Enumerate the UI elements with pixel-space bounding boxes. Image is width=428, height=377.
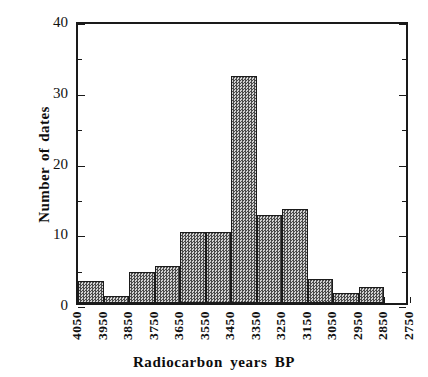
bar [282, 209, 308, 303]
y-tick-label: 20 [34, 157, 68, 172]
bar [78, 281, 104, 303]
y-tick-major [78, 307, 85, 308]
x-tick-label: 3350 [248, 311, 262, 340]
chart-page: Number of dates 010203040 40503950385037… [0, 0, 428, 377]
bar [155, 266, 181, 303]
y-tick-label: 10 [34, 227, 68, 242]
x-tick-label: 3450 [222, 311, 236, 340]
bars-container [78, 24, 406, 303]
bar [333, 293, 359, 303]
x-tick-label: 2850 [375, 311, 389, 340]
y-tick-label: 0 [34, 298, 68, 313]
x-tick-label: 3650 [171, 311, 185, 340]
y-tick-label: 40 [34, 15, 68, 30]
plot-area [76, 22, 408, 305]
x-tick-label: 3950 [95, 311, 109, 340]
x-tick [410, 297, 411, 303]
y-tick-label: 30 [34, 86, 68, 101]
x-axis-title: Radiocarbon years BP [0, 354, 428, 371]
x-tick-label: 3550 [197, 311, 211, 340]
bar [180, 232, 206, 303]
bar [257, 215, 283, 303]
bar [359, 287, 385, 303]
x-tick-label: 2750 [401, 311, 415, 340]
bar [308, 279, 334, 303]
x-tick-label: 2950 [350, 311, 364, 340]
bar [129, 272, 155, 303]
x-tick-label: 4050 [69, 311, 83, 340]
bar [231, 76, 257, 303]
x-tick-label: 3250 [273, 311, 287, 340]
bar [206, 232, 232, 303]
x-tick-label: 3150 [299, 311, 313, 340]
x-tick-label: 3750 [146, 311, 160, 340]
y-tick-major-right [399, 307, 406, 308]
x-tick-label: 3850 [120, 311, 134, 340]
bar [104, 296, 130, 303]
x-tick-label: 3050 [324, 311, 338, 340]
